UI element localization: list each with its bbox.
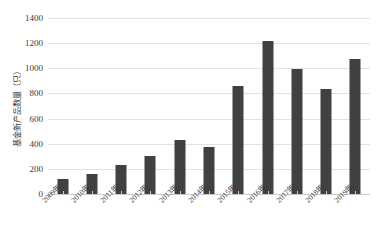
y-tick-label: 1000 [25, 64, 43, 73]
x-tick [297, 191, 298, 194]
x-tick [150, 191, 151, 194]
x-tick [121, 191, 122, 194]
y-axis-title: 基金新产品数量（只） [14, 37, 22, 177]
x-tick [209, 191, 210, 194]
bar-series [48, 18, 370, 194]
bar-slot [48, 18, 77, 194]
x-tick [355, 191, 356, 194]
bar-slot [341, 18, 370, 194]
bar[interactable] [291, 69, 302, 194]
axis-baseline [48, 194, 370, 195]
x-tick [180, 191, 181, 194]
bar-slot [253, 18, 282, 194]
x-tick [326, 191, 327, 194]
y-tick-label: 1200 [25, 39, 43, 48]
bar[interactable] [262, 41, 273, 194]
y-tick-label: 800 [30, 89, 44, 98]
x-tick [63, 191, 64, 194]
x-tick [268, 191, 269, 194]
bar[interactable] [350, 59, 361, 194]
plot-area: 0200400600800100012001400 2009年2010年2011… [48, 18, 370, 194]
bar-slot [107, 18, 136, 194]
bar-slot [311, 18, 340, 194]
bar-slot [136, 18, 165, 194]
bar-slot [282, 18, 311, 194]
y-tick-label: 600 [30, 114, 44, 123]
y-tick-label: 1400 [25, 14, 43, 23]
x-tick [238, 191, 239, 194]
bar[interactable] [233, 86, 244, 194]
y-tick-label: 400 [30, 139, 44, 148]
bar[interactable] [321, 89, 332, 194]
bar-slot [224, 18, 253, 194]
bar-slot [194, 18, 223, 194]
bar-slot [165, 18, 194, 194]
y-tick-label: 200 [30, 164, 44, 173]
bar-chart: 基金新产品数量（只） 0200400600800100012001400 200… [0, 0, 378, 247]
bar-slot [77, 18, 106, 194]
x-tick [92, 191, 93, 194]
